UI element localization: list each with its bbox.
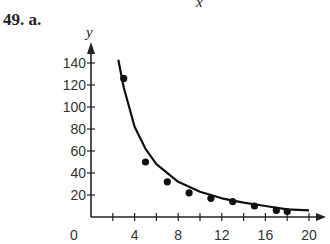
x-axis-arrow-icon — [316, 213, 326, 221]
x-tick-label: 20 — [301, 227, 317, 243]
x-tick-label: 12 — [214, 227, 230, 243]
y-tick-label: 100 — [63, 99, 87, 115]
data-point — [229, 198, 236, 205]
data-point — [273, 207, 280, 214]
y-axis-arrow-icon — [87, 42, 95, 54]
y-tick-label: 60 — [70, 143, 86, 159]
y-tick-label: 140 — [63, 55, 87, 71]
x-tick-label: 8 — [174, 227, 182, 243]
y-tick-label: 120 — [63, 77, 87, 93]
y-tick-label: 80 — [70, 121, 86, 137]
data-point — [120, 75, 127, 82]
y-axis-title: y — [84, 24, 93, 40]
scatter-chart: y04812162020406080100120140 — [0, 0, 330, 244]
data-point — [207, 195, 214, 202]
data-point — [284, 208, 291, 215]
fitted-curve — [118, 60, 309, 211]
x-tick-label: 16 — [258, 227, 274, 243]
x-tick-label: 0 — [70, 227, 78, 243]
data-point — [186, 189, 193, 196]
y-tick-label: 40 — [70, 165, 86, 181]
y-tick-label: 20 — [70, 187, 86, 203]
data-point — [142, 158, 149, 165]
x-tick-label: 4 — [131, 227, 139, 243]
data-point — [251, 202, 258, 209]
data-point — [164, 178, 171, 185]
